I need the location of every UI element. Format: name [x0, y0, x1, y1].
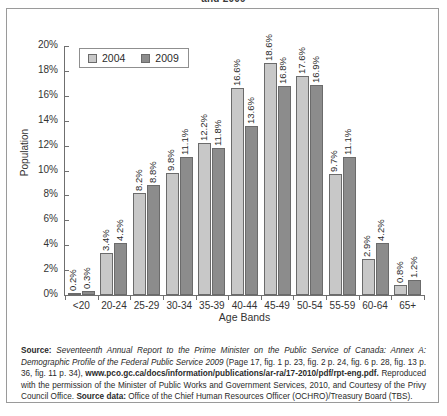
bar-value-label-2009-55-59: 11.1%: [342, 129, 353, 155]
y-tick-label: 4%: [44, 238, 58, 249]
bar-2009-35-39: [212, 148, 225, 295]
x-tick-mark: [130, 295, 131, 300]
bar-2004-30-34: [166, 173, 179, 295]
bar-group-60-64: 2.9%4.2%: [362, 46, 389, 295]
x-axis-label: Age Bands: [65, 311, 424, 323]
bar-value-label-2004-60-64: 2.9%: [361, 235, 372, 257]
source-data-label: Source data:: [76, 392, 126, 401]
y-tick-label: 16%: [38, 89, 58, 100]
bar-2009-45-49: [278, 86, 291, 295]
bar-chart: Population 0%2%4%6%8%10%12%14%16%18%20% …: [7, 9, 440, 339]
y-tick-label: 8%: [44, 188, 58, 199]
bar-2004-60-64: [362, 259, 375, 295]
x-tick-mark: [293, 295, 294, 300]
bar-2004-<20: [68, 293, 81, 295]
x-tick-label-45-49: 45-49: [264, 300, 290, 311]
y-tick-label: 12%: [38, 139, 58, 150]
bar-value-label-2004-<20: 0.2%: [67, 269, 78, 291]
x-tick-mark: [163, 295, 164, 300]
y-tick-label: 0%: [44, 288, 58, 299]
source-note: Source: Seventeenth Annual Report to the…: [7, 339, 440, 403]
y-axis-label: Population: [19, 98, 30, 208]
bar-2004-50-54: [296, 76, 309, 295]
bar-group-35-39: 12.2%11.8%: [198, 46, 225, 295]
x-tick-label-50-54: 50-54: [297, 300, 323, 311]
x-tick-mark: [98, 295, 99, 300]
bar-value-label-2004-55-59: 9.7%: [328, 151, 339, 173]
bar-value-label-2009-<20: 0.3%: [81, 268, 92, 290]
bar-2004-45-49: [264, 63, 277, 295]
x-tick-label-<20: <20: [73, 300, 90, 311]
x-tick-mark: [326, 295, 327, 300]
y-tick-label: 10%: [38, 164, 58, 175]
legend-swatch-2004-icon: [88, 54, 97, 63]
source-label: Source:: [21, 346, 51, 355]
x-tick-mark: [228, 295, 229, 300]
bar-2009-25-29: [147, 185, 160, 295]
bar-2009-60-64: [376, 243, 389, 295]
bar-value-label-2009-30-34: 11.1%: [179, 129, 190, 155]
bar-value-label-2009-40-44: 13.6%: [245, 97, 256, 124]
bar-value-label-2004-25-29: 8.2%: [133, 169, 144, 191]
legend-swatch-2009-icon: [141, 54, 150, 63]
bar-2004-20-24: [100, 253, 113, 295]
bar-value-label-2009-60-64: 4.2%: [375, 219, 386, 241]
x-tick-label-60-64: 60-64: [362, 300, 388, 311]
bar-value-label-2009-20-24: 4.2%: [114, 219, 125, 241]
bar-value-label-2009-45-49: 16.8%: [277, 57, 288, 84]
bar-value-label-2004-40-44: 16.6%: [231, 59, 242, 86]
bar-2004-55-59: [329, 174, 342, 295]
bar-value-label-2009-65+: 1.2%: [408, 256, 419, 278]
bar-group-65+: 0.8%1.2%: [394, 46, 421, 295]
bar-2009-30-34: [180, 157, 193, 295]
bar-group-50-54: 17.6%16.9%: [296, 46, 323, 295]
x-tick-mark: [261, 295, 262, 300]
chart-title-text: and 2009: [0, 0, 447, 4]
y-tick-label: 14%: [38, 114, 58, 125]
chart-title-clipped: and 2009: [0, 0, 447, 7]
bar-2009-55-59: [343, 157, 356, 295]
source-data-text: Office of the Chief Human Resources Offi…: [128, 392, 412, 401]
x-tick-label-40-44: 40-44: [232, 300, 258, 311]
bar-value-label-2004-35-39: 12.2%: [198, 114, 209, 141]
bar-2004-40-44: [231, 88, 244, 295]
legend-item-2009: 2009: [141, 52, 178, 64]
bar-2009-<20: [82, 291, 95, 295]
bar-value-label-2004-20-24: 3.4%: [100, 229, 111, 251]
bar-value-label-2009-50-54: 16.9%: [310, 56, 321, 83]
bar-group-20-24: 3.4%4.2%: [100, 46, 127, 295]
bar-group-40-44: 16.6%13.6%: [231, 46, 258, 295]
bar-group-25-29: 8.2%8.8%: [133, 46, 160, 295]
chart-legend: 2004 2009: [79, 48, 189, 68]
bar-2009-65+: [408, 280, 421, 295]
bar-value-label-2009-25-29: 8.8%: [147, 162, 158, 184]
bar-value-label-2004-45-49: 18.6%: [263, 35, 274, 62]
legend-item-2004: 2004: [88, 52, 125, 64]
bar-value-label-2004-30-34: 9.8%: [165, 149, 176, 171]
bar-2009-50-54: [310, 85, 323, 295]
bar-2004-65+: [394, 285, 407, 295]
y-tick-label: 2%: [44, 263, 58, 274]
x-tick-mark: [391, 295, 392, 300]
bar-value-label-2004-65+: 0.8%: [394, 261, 405, 283]
x-tick-label-65+: 65+: [399, 300, 416, 311]
x-tick-label-35-39: 35-39: [199, 300, 225, 311]
bar-value-label-2009-35-39: 11.8%: [212, 120, 223, 146]
bar-2004-25-29: [133, 193, 146, 295]
bar-2009-20-24: [114, 243, 127, 295]
x-tick-mark: [196, 295, 197, 300]
x-axis-line: [64, 295, 425, 296]
bar-value-label-2004-50-54: 17.6%: [296, 47, 307, 74]
x-tick-label-25-29: 25-29: [134, 300, 160, 311]
plot-area: 0%2%4%6%8%10%12%14%16%18%20% 0.2%0.3%3.4…: [65, 46, 424, 295]
bar-group-<20: 0.2%0.3%: [68, 46, 95, 295]
x-tick-mark: [359, 295, 360, 300]
legend-label-2009: 2009: [155, 52, 178, 64]
y-tick-label: 20%: [38, 39, 58, 50]
x-tick-label-20-24: 20-24: [101, 300, 127, 311]
bar-group-45-49: 18.6%16.8%: [264, 46, 291, 295]
x-tick-mark: [65, 295, 66, 300]
bar-2004-35-39: [198, 143, 211, 295]
bar-2009-40-44: [245, 126, 258, 295]
bar-group-30-34: 9.8%11.1%: [166, 46, 193, 295]
